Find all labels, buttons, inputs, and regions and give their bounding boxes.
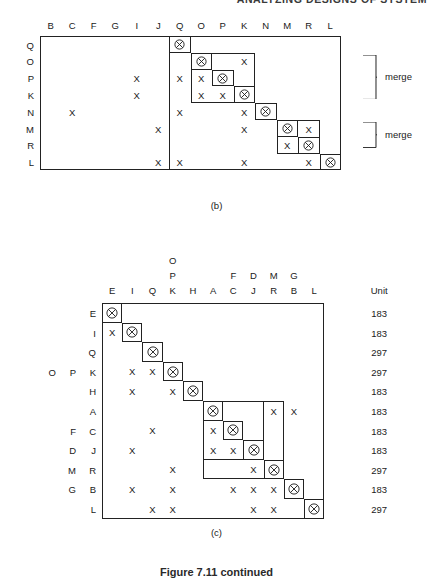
column-header-c: C (223, 285, 243, 296)
unit-value: 297 (357, 347, 401, 358)
row-label-c: C (74, 426, 96, 437)
dependency-mark: X (264, 485, 284, 495)
dependency-mark: X (142, 505, 162, 515)
unit-value: 183 (357, 445, 401, 456)
row-label-l: L (74, 504, 96, 515)
diagonal-circled-x-icon (282, 123, 293, 134)
diagonal-circled-x-icon (167, 366, 179, 378)
dependency-mark: X (191, 91, 213, 101)
panel-c-caption: (c) (0, 527, 433, 538)
column-header-mid-p: P (163, 270, 183, 281)
row-label-mid-m: M (54, 465, 76, 476)
column-header-b: B (284, 285, 304, 296)
row-label-i: I (74, 328, 96, 339)
column-header-i: I (126, 20, 148, 31)
panel-b-caption: (b) (0, 200, 433, 211)
dependency-mark: X (223, 446, 243, 456)
column-header-mid-g: G (284, 270, 304, 281)
column-header-r: R (264, 285, 284, 296)
row-label-mid-f: F (54, 426, 76, 437)
running-head: ANALYZING DESIGNS OF SYSTEM (237, 0, 427, 5)
row-label-left-o: O (34, 367, 56, 378)
dependency-mark: X (203, 426, 223, 436)
merge-bracket-1 (363, 55, 377, 99)
row-label-q: Q (10, 40, 34, 51)
row-label-b: B (74, 484, 96, 495)
unit-value: 183 (357, 426, 401, 437)
row-label-a: A (74, 406, 96, 417)
column-header-q: Q (169, 20, 191, 31)
dependency-mark: X (212, 91, 234, 101)
dependency-mark: X (142, 367, 162, 377)
diagonal-circled-x-icon (207, 405, 219, 417)
diagonal-circled-x-icon (303, 140, 314, 151)
partition-line-vertical (169, 36, 170, 170)
diagonal-circled-x-icon (248, 444, 260, 456)
row-label-k: K (10, 90, 34, 101)
figure-caption: Figure 7.11 continued (0, 566, 433, 578)
dependency-mark: X (126, 91, 148, 101)
dependency-mark: X (163, 465, 183, 475)
row-label-mid-d: D (54, 445, 76, 456)
dependency-mark: X (234, 57, 256, 67)
column-header-mid-f: F (223, 270, 243, 281)
column-header-b: B (40, 20, 62, 31)
dependency-mark: X (191, 74, 213, 84)
row-label-k: K (74, 367, 96, 378)
dependency-mark: X (142, 426, 162, 436)
row-label-j: J (74, 445, 96, 456)
dependency-mark: X (169, 74, 191, 84)
dependency-mark: X (284, 407, 304, 417)
column-header-j: J (243, 285, 263, 296)
diagonal-circled-x-icon (187, 385, 199, 397)
diagonal-circled-x-icon (126, 326, 138, 338)
row-label-e: E (74, 308, 96, 319)
unit-value: 183 (357, 484, 401, 495)
dependency-mark: X (163, 485, 183, 495)
row-label-o: O (10, 56, 34, 67)
unit-value: 183 (357, 386, 401, 397)
dependency-mark: X (203, 446, 223, 456)
column-header-h: H (183, 285, 203, 296)
unit-value: 297 (357, 504, 401, 515)
unit-value: 297 (357, 367, 401, 378)
column-header-g: G (105, 20, 127, 31)
row-label-l: L (10, 157, 34, 168)
dependency-mark: X (243, 505, 263, 515)
dependency-mark: X (243, 485, 263, 495)
row-label-q: Q (74, 347, 96, 358)
panel-c-dsm-matrix: OPFDMGEIQKHACJRBLEIQKHACJRBLPFDMGOXXXXXX… (0, 245, 433, 555)
unit-value: 183 (357, 308, 401, 319)
diagonal-circled-x-icon (106, 307, 118, 319)
dependency-mark: X (122, 387, 142, 397)
column-header-mid-d: D (243, 270, 263, 281)
diagonal-circled-x-icon (147, 346, 159, 358)
dependency-mark: X (122, 446, 142, 456)
dependency-mark: X (62, 108, 84, 118)
dependency-mark: X (243, 465, 263, 475)
diagonal-circled-x-icon (196, 56, 207, 67)
dependency-mark: X (163, 505, 183, 515)
column-header-a: A (203, 285, 223, 296)
dependency-mark: X (126, 74, 148, 84)
merge-label-1: merge (385, 71, 412, 82)
diagonal-circled-x-icon (217, 73, 228, 84)
row-label-mid-g: G (54, 484, 76, 495)
dependency-mark: X (163, 387, 183, 397)
diagonal-circled-x-icon (227, 424, 239, 436)
column-header-e: E (102, 285, 122, 296)
column-header-p: P (212, 20, 234, 31)
dependency-mark: X (234, 125, 256, 135)
row-label-mid-p: P (54, 367, 76, 378)
column-header-n: N (255, 20, 277, 31)
dependency-mark: X (122, 485, 142, 495)
unit-value: 183 (357, 406, 401, 417)
column-header-l: L (320, 20, 342, 31)
row-label-m: M (10, 124, 34, 135)
dependency-mark: X (148, 158, 170, 168)
row-label-h: H (74, 386, 96, 397)
dependency-mark: X (102, 328, 122, 338)
dependency-mark: X (169, 158, 191, 168)
column-header-k: K (163, 285, 183, 296)
